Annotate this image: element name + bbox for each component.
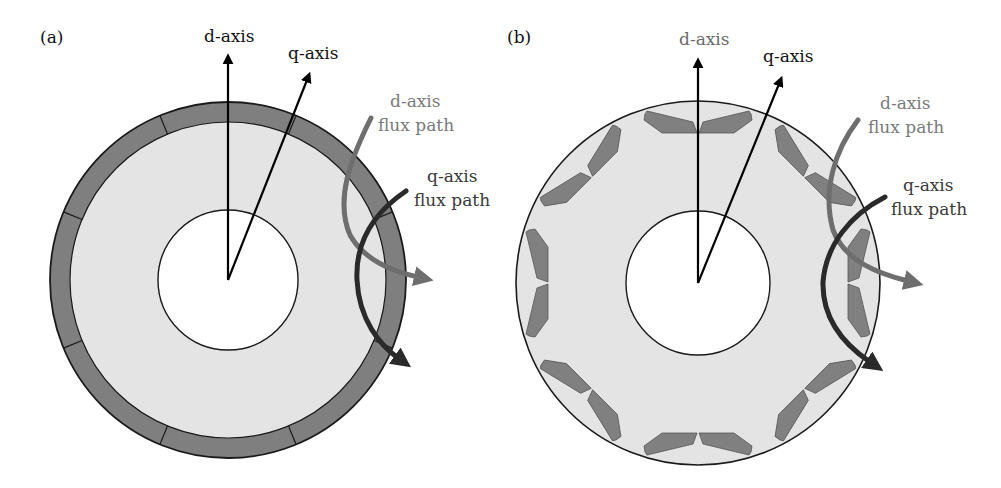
panel-a-label: (a)	[40, 27, 63, 47]
d-flux-label-line1: d-axis	[880, 93, 931, 113]
d-axis-label: d-axis	[204, 26, 255, 46]
d-flux-label-line1: d-axis	[390, 91, 441, 111]
panel-b-label: (b)	[507, 27, 531, 47]
q-flux-label-line1: q-axis	[903, 175, 954, 195]
panel-b: (b) d-axis q-axis d-axis	[507, 27, 967, 465]
panel-a: (a) d-axis q-axis d-axis flux path q-a	[40, 26, 490, 458]
d-flux-label-line2: flux path	[378, 115, 454, 135]
q-axis-label: q-axis	[288, 43, 339, 63]
diagram-canvas: (a) d-axis q-axis d-axis flux path q-a	[0, 0, 1001, 488]
d-flux-label-line2: flux path	[868, 117, 944, 137]
q-axis-label: q-axis	[763, 46, 814, 66]
q-flux-label-line2: flux path	[414, 190, 490, 210]
d-axis-label: d-axis	[679, 29, 730, 49]
q-flux-label-line1: q-axis	[427, 166, 478, 186]
q-flux-label-line2: flux path	[891, 199, 967, 219]
